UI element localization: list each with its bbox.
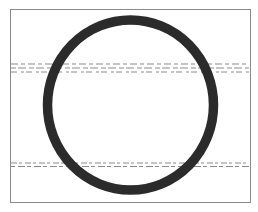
- ring-shape: [48, 20, 214, 190]
- figure-caption: [30, 203, 240, 212]
- lower-dashed-band: [11, 163, 249, 167]
- ring-diagram: [0, 0, 258, 212]
- upper-dashed-band: [11, 64, 249, 72]
- diagram-canvas: [0, 0, 258, 212]
